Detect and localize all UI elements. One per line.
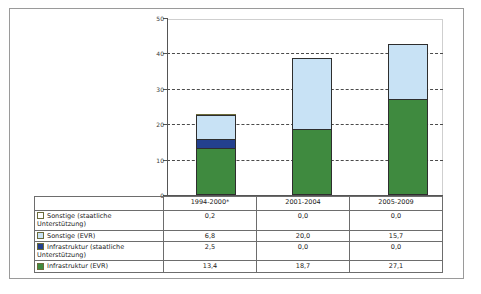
chart-plot-area: 01020304050 — [158, 19, 443, 196]
table-row: Infrastruktur (EVR)13,418,727,1 — [35, 261, 443, 272]
x-axis-category-label: 1994-2000* — [164, 197, 257, 211]
table-corner-cell — [35, 197, 164, 211]
table-value-cell: 0,0 — [350, 241, 443, 261]
table-value-cell: 0,2 — [164, 211, 257, 231]
bar-stack[interactable] — [196, 114, 236, 195]
y-tick-label: 40 — [156, 50, 164, 57]
legend-label: Infrastruktur (EVR) — [47, 263, 108, 271]
x-axis-category-label: 2001-2004 — [257, 197, 350, 211]
table-category-row: 1994-2000*2001-20042005-2009 — [35, 197, 443, 211]
bar-segment[interactable] — [292, 129, 332, 195]
legend-entry: Infrastruktur (EVR) — [35, 261, 164, 272]
table-value-cell: 18,7 — [257, 261, 350, 272]
y-tick-label: 20 — [156, 121, 164, 128]
y-tick-label: 50 — [156, 15, 164, 22]
table-value-cell: 13,4 — [164, 261, 257, 272]
table-row: Sonstige (EVR)6,820,015,7 — [35, 230, 443, 241]
legend-label: Sonstige (EVR) — [47, 232, 95, 240]
y-tick-label: 30 — [156, 85, 164, 92]
table-value-cell: 0,0 — [257, 241, 350, 261]
table-row: Infrastruktur (staatliche Unterstützung)… — [35, 241, 443, 261]
bar-segment[interactable] — [196, 139, 236, 148]
bar-segment[interactable] — [388, 99, 428, 195]
bar-stack[interactable] — [388, 44, 428, 195]
table-value-cell: 0,0 — [257, 211, 350, 231]
bar-segment[interactable] — [388, 44, 428, 100]
table-value-cell: 0,0 — [350, 211, 443, 231]
data-table: 1994-2000*2001-20042005-2009Sonstige (st… — [34, 196, 443, 273]
x-axis-category-label: 2005-2009 — [350, 197, 443, 211]
bar-segment[interactable] — [196, 148, 236, 195]
table-value-cell: 6,8 — [164, 230, 257, 241]
table-row: Sonstige (staatliche Unterstützung)0,20,… — [35, 211, 443, 231]
legend-swatch-icon — [37, 263, 44, 270]
legend-entry: Sonstige (EVR) — [35, 230, 164, 241]
bar-segment[interactable] — [292, 58, 332, 129]
bar-stack[interactable] — [292, 58, 332, 195]
bar-segment[interactable] — [196, 115, 236, 139]
legend-label: Infrastruktur (staatliche Unterstützung) — [37, 243, 124, 259]
table-value-cell: 27,1 — [350, 261, 443, 272]
legend-entry: Sonstige (staatliche Unterstützung) — [35, 211, 164, 231]
table-value-cell: 2,5 — [164, 241, 257, 261]
table-value-cell: 20,0 — [257, 230, 350, 241]
y-tick-label: 10 — [156, 156, 164, 163]
y-axis-line — [167, 19, 168, 196]
legend-swatch-icon — [37, 243, 44, 250]
table-value-cell: 15,7 — [350, 230, 443, 241]
legend-entry: Infrastruktur (staatliche Unterstützung) — [35, 241, 164, 261]
figure-frame: 01020304050 1994-2000*2001-20042005-2009… — [9, 8, 464, 279]
legend-swatch-icon — [37, 212, 44, 219]
legend-swatch-icon — [37, 232, 44, 239]
legend-label: Sonstige (staatliche Unterstützung) — [37, 212, 111, 228]
